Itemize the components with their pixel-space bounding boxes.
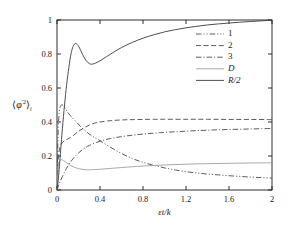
x-axis-tick-label: 1.6 bbox=[214, 195, 244, 204]
x-axis-tick-label: 2 bbox=[257, 195, 287, 204]
x-axis-tick-label: 0 bbox=[42, 195, 72, 204]
series-line-D bbox=[57, 160, 272, 190]
legend-label-D: D bbox=[228, 64, 235, 73]
y-axis-tick-label: 1 bbox=[26, 16, 52, 25]
series-group bbox=[57, 20, 272, 190]
y-axis-title: ⟨φ′2⟩i bbox=[2, 99, 42, 112]
y-axis-title-text: ⟨φ′2⟩i bbox=[12, 99, 32, 110]
series-line-R-2 bbox=[57, 20, 272, 190]
y-axis-tick-label: 0.4 bbox=[26, 118, 52, 127]
chart-page: ⟨φ′2⟩i εt/k 00.20.40.60.8100.40.81.21.62… bbox=[0, 0, 288, 229]
legend-label-1: 1 bbox=[228, 29, 233, 38]
y-axis-tick-label: 0.2 bbox=[26, 152, 52, 161]
series-line-2 bbox=[57, 119, 272, 190]
y-axis-tick-label: 0.6 bbox=[26, 84, 52, 93]
x-axis-tick-label: 1.2 bbox=[171, 195, 201, 204]
plot-frame bbox=[57, 20, 272, 190]
y-axis-tick-label: 0 bbox=[26, 186, 52, 195]
series-line-1 bbox=[57, 105, 272, 190]
x-axis-title: εt/k bbox=[57, 207, 272, 217]
series-line-3 bbox=[57, 128, 272, 190]
legend-label-3: 3 bbox=[228, 52, 233, 61]
legend-label-2: 2 bbox=[228, 41, 233, 50]
x-axis-tick-label: 0.4 bbox=[85, 195, 115, 204]
x-axis-tick-label: 0.8 bbox=[128, 195, 158, 204]
y-axis-tick-label: 0.8 bbox=[26, 50, 52, 59]
legend-label-R-2: R/2 bbox=[228, 76, 241, 85]
